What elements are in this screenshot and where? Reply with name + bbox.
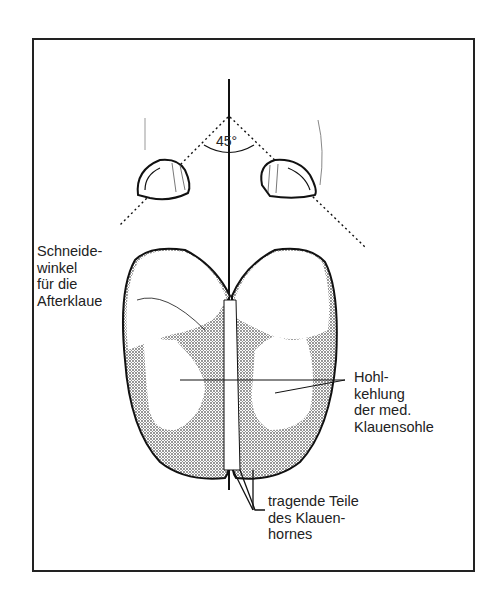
angle-label: 45° [216, 133, 237, 149]
label-bearing-parts: tragende Teile des Klauen- hornes [268, 493, 359, 543]
label-sole-concavity: Hohl- kehlung der med. Klauensohle [354, 369, 434, 435]
dewclaw-left [138, 160, 190, 200]
label-cutting-angle: Schneide- winkel für die Afterklaue [37, 243, 102, 309]
claw-right [232, 249, 337, 479]
claw-left [123, 249, 230, 479]
dewclaw-right [261, 160, 316, 198]
